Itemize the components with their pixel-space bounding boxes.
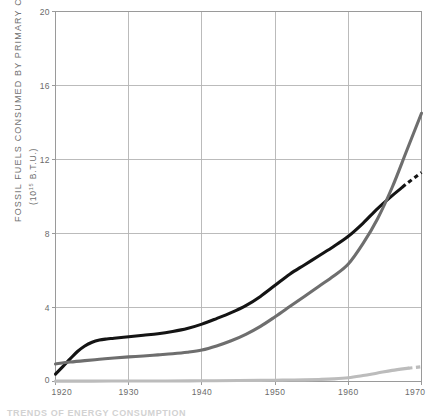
y-tick-label: 12 [40,155,50,165]
x-tick-label: 1970 [405,387,426,397]
x-tick-label: 1930 [118,387,139,397]
y-units-suffix: B.T.U.) [28,148,38,183]
y-axis-title: FOSSIL FUELS CONSUMED BY PRIMARY CONVERT… [13,0,23,222]
y-tick-label: 8 [45,229,50,239]
y-tick-label: 0 [45,375,50,385]
x-tick-label: 1960 [338,387,359,397]
x-tick-label: 1940 [192,387,213,397]
x-tick-label: 1920 [52,387,73,397]
line-chart: 192019301940195019601970048121620FOSSIL … [0,0,435,418]
series-line-solid [56,187,403,374]
y-tick-label: 16 [40,81,50,91]
chart-figure: 192019301940195019601970048121620FOSSIL … [0,0,435,418]
y-tick-label: 20 [40,7,50,17]
y-units-exponent: 15 [28,182,34,190]
y-units-prefix: (10 [28,190,38,205]
series-line-dashed [402,172,421,187]
series-line-solid [56,368,409,381]
series-line-dashed [408,367,421,369]
y-tick-label: 4 [45,303,50,313]
y-axis-units: (1015 B.T.U.) [28,148,38,205]
x-tick-label: 1950 [265,387,286,397]
figure-caption-partial: TRENDS OF ENERGY CONSUMPTION [7,408,186,418]
series-line-solid [56,113,422,364]
